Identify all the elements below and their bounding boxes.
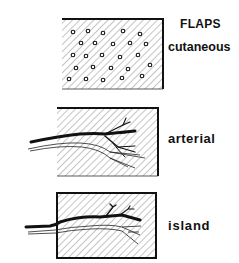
label-cutaneous: cutaneous xyxy=(168,41,231,54)
label-arterial: arterial xyxy=(168,132,215,145)
diagram-title: FLAPS xyxy=(180,18,221,30)
cutaneous-flap xyxy=(62,19,163,89)
island-flap xyxy=(26,193,156,258)
label-island: island xyxy=(168,219,210,232)
arterial-flap xyxy=(28,108,158,176)
